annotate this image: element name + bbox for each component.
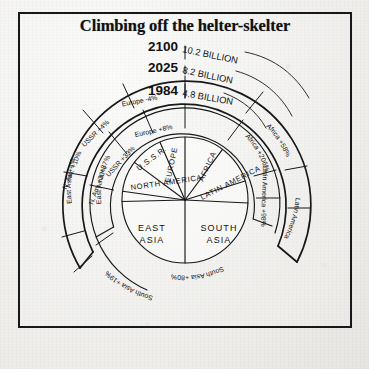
- growth-2100-africa: Africa +58%: [265, 122, 292, 158]
- growth-2100-east-asia: East Asia +4%: [65, 158, 76, 204]
- growth-2025-europe: Europe +8%: [134, 123, 173, 139]
- year-2100-population: 10.2 BILLION: [182, 44, 239, 65]
- population-ring-chart: 2100 10.2 BILLION 2025 8.2 BILLION 1984 …: [0, 0, 369, 369]
- growth-2025-south-asia-text: South Asia +80%: [170, 266, 225, 282]
- year-2100-value: 2100: [148, 39, 178, 54]
- growth-2100-africa-text: Africa +58%: [265, 122, 292, 158]
- growth-2100-south-asia-text: South Asia +19%: [103, 270, 153, 302]
- growth-2100-east-asia-text: East Asia +4%: [65, 158, 76, 204]
- label-south-asia-line2: ASIA: [207, 235, 232, 245]
- label-east-asia-line2: ASIA: [140, 235, 165, 245]
- year-2025-value: 2025: [148, 60, 179, 75]
- label-east-asia-line1: EAST: [138, 223, 166, 233]
- label-south-asia-line1: SOUTH: [201, 223, 238, 233]
- growth-2100-south-asia: South Asia +19%: [103, 270, 153, 302]
- growth-2025-south-asia: South Asia +80%: [170, 266, 225, 282]
- growth-2025-east-asia-text: East Asia +37%: [95, 154, 111, 204]
- growth-2025-east-asia: East Asia +37%: [95, 154, 111, 204]
